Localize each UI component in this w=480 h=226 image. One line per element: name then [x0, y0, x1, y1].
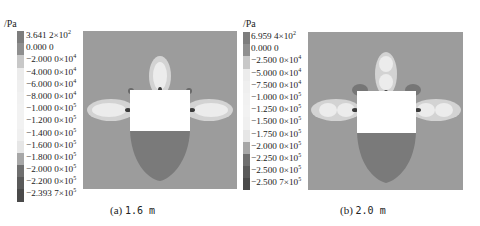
colorbar-swatch [17, 31, 24, 43]
legend-label: −4.000 0×104 [26, 66, 76, 78]
colorbar-swatch [17, 92, 24, 104]
pressure-field-b [308, 32, 463, 190]
colorbar-swatch [17, 189, 24, 201]
colorbar-swatch [17, 55, 24, 67]
caption-a-label: (a) [110, 204, 122, 216]
caption-b-label: (b) [340, 204, 353, 216]
colorbar-swatch [243, 142, 250, 154]
legend-label: −2.500 0×104 [251, 54, 301, 66]
caption-a: (a) 1.6 m [110, 204, 155, 216]
colorbar-swatch [17, 116, 24, 128]
legend-label: −2.000 0×105 [251, 140, 301, 152]
colorbar-swatch [243, 56, 250, 68]
colorbar-swatch [243, 69, 250, 81]
colorbar-swatch [243, 93, 250, 105]
caption-a-value: 1.6 m [125, 205, 155, 216]
colorbar-swatch [243, 81, 250, 93]
colorbar-swatch [243, 44, 250, 56]
legend-label: −2.393 7×105 [26, 187, 76, 199]
contour-plot-b [308, 32, 463, 190]
colorbar-swatch [243, 130, 250, 142]
legend-unit-a: /Pa [4, 18, 17, 29]
colorbar-a [17, 31, 24, 202]
excavation-opening-a [130, 90, 190, 131]
legend-label: −2.200 0×105 [26, 175, 76, 187]
colorbar-swatch [243, 117, 250, 129]
legend-label: −1.400 0×105 [26, 127, 76, 139]
colorbar-swatch [17, 43, 24, 55]
colorbar-swatch [243, 154, 250, 166]
legend-unit-b: /Pa [243, 18, 256, 29]
legend-label: −2.500 0×105 [251, 164, 301, 176]
pressure-field-a [83, 31, 237, 189]
colorbar-swatch [17, 141, 24, 153]
colorbar-swatch [17, 165, 24, 177]
legend-label: 3.641 2×102 [26, 29, 76, 41]
legend-label: 6.959 4×102 [251, 30, 301, 42]
colorbar-swatch [243, 32, 250, 44]
legend-label: −1.500 0×105 [251, 115, 301, 127]
caption-b-value: 2.0 m [356, 205, 386, 216]
legend-label: −1.000 0×105 [26, 102, 76, 114]
colorbar-swatch [17, 177, 24, 189]
legend-label: −7.500 0×104 [251, 79, 301, 91]
excavation-opening-b [357, 91, 416, 133]
legend-labels-a: 3.641 2×1020.000 0−2.000 0×104−4.000 0×1… [26, 29, 76, 200]
colorbar-swatch [17, 68, 24, 80]
legend-label: −1.600 0×105 [26, 139, 76, 151]
legend-label: −1.000 0×105 [251, 91, 301, 103]
caption-b: (b) 2.0 m [340, 204, 386, 216]
legend-label: −6.000 0×104 [26, 78, 76, 90]
legend-label: −2.500 7×105 [251, 176, 301, 188]
colorbar-b [243, 32, 250, 190]
legend-label: −1.750 0×105 [251, 128, 301, 140]
colorbar-swatch [243, 105, 250, 117]
legend-label: −8.000 0×104 [26, 90, 76, 102]
legend-label: −5.000 0×104 [251, 67, 301, 79]
legend-label: −2.000 0×104 [26, 53, 76, 65]
legend-label: −1.200 0×105 [26, 114, 76, 126]
legend-label: −1.250 0×105 [251, 103, 301, 115]
legend-label: −2.000 0×105 [26, 163, 76, 175]
legend-label: −1.800 0×105 [26, 151, 76, 163]
colorbar-swatch [17, 153, 24, 165]
colorbar-swatch [17, 129, 24, 141]
colorbar-swatch [17, 104, 24, 116]
colorbar-swatch [17, 80, 24, 92]
contour-plot-a [83, 31, 237, 189]
colorbar-swatch [243, 166, 250, 178]
legend-labels-b: 6.959 4×1020.000 0−2.500 0×104−5.000 0×1… [251, 30, 301, 188]
colorbar-swatch [243, 178, 250, 190]
legend-label: −2.250 0×105 [251, 152, 301, 164]
legend-label: 0.000 0 [26, 41, 76, 53]
legend-label: 0.000 0 [251, 42, 301, 54]
